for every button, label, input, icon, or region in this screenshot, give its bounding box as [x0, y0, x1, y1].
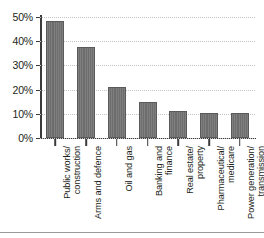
x-axis-tick	[55, 139, 57, 146]
x-axis-category-label-line: Public works/	[62, 146, 72, 199]
x-axis-tick	[147, 139, 149, 146]
bar-column[interactable]	[200, 17, 218, 138]
bar[interactable]	[169, 111, 187, 138]
y-axis-tick-label: 40%	[13, 35, 33, 47]
x-axis-category-label: Public works/construction	[62, 146, 83, 199]
x-axis-category-label: Power generation/transmission	[246, 146, 264, 219]
y-axis-tick-label: 20%	[13, 84, 33, 96]
x-axis-category-label: Oil and gas	[124, 146, 134, 191]
x-axis-category-label-line: Power generation/	[246, 146, 256, 219]
x-axis-category-label: Banking andfinance	[154, 146, 175, 196]
bar-column[interactable]	[108, 17, 126, 138]
bar-series	[40, 17, 255, 138]
bar-chart-figure: 0%10%20%30%40%50% Public works/construct…	[0, 0, 264, 238]
bar[interactable]	[200, 113, 218, 138]
x-axis-category-label-line: transmission	[257, 146, 264, 219]
x-axis-tick	[177, 139, 179, 146]
chart-title	[0, 0, 264, 2]
y-axis-tick	[36, 138, 40, 139]
bar-column[interactable]	[169, 17, 187, 138]
bar-column[interactable]	[139, 17, 157, 138]
x-axis-category-label-line: medicare	[226, 146, 236, 210]
x-axis-category-label-line: property	[195, 146, 205, 194]
bar[interactable]	[46, 21, 64, 138]
bar[interactable]	[77, 47, 95, 138]
x-axis-category-label-line: Real estate/	[185, 146, 195, 194]
x-axis-category-label-line: construction	[73, 146, 83, 199]
x-axis-category-label-line: Banking and	[154, 146, 164, 196]
x-axis-tick	[208, 139, 210, 146]
bottom-divider	[0, 232, 264, 233]
x-axis-category-label-line: Oil and gas	[124, 146, 134, 191]
bar[interactable]	[139, 102, 157, 138]
bar[interactable]	[231, 113, 249, 138]
x-axis-tick	[116, 139, 118, 146]
x-axis-category-label-line: Arms and defence	[93, 146, 103, 219]
y-axis-tick-label: 0%	[18, 132, 33, 144]
bar-column[interactable]	[46, 17, 64, 138]
x-axis-tick	[239, 139, 241, 146]
y-axis-tick-label: 50%	[13, 11, 33, 23]
plot-area: 0%10%20%30%40%50%	[40, 17, 255, 138]
x-axis-category-label: Real estate/property	[185, 146, 206, 194]
x-axis-category-label: Arms and defence	[93, 146, 103, 219]
y-axis-tick-label: 10%	[13, 108, 33, 120]
y-axis-tick-label: 30%	[13, 59, 33, 71]
bar-column[interactable]	[231, 17, 249, 138]
x-axis-labels: Public works/constructionArms and defenc…	[40, 146, 255, 230]
bar-column[interactable]	[77, 17, 95, 138]
bar[interactable]	[108, 87, 126, 138]
x-axis-category-label-line: finance	[165, 146, 175, 196]
x-axis-tick	[85, 139, 87, 146]
x-axis-category-label: Pharmaceutical/medicare	[216, 146, 237, 210]
x-axis-category-label-line: Pharmaceutical/	[216, 146, 226, 210]
